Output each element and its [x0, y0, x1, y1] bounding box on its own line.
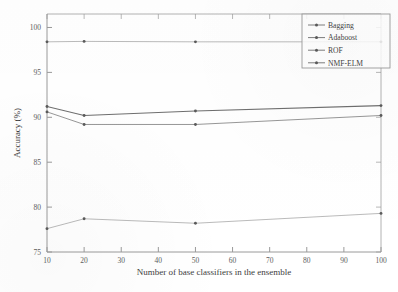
data-point: [46, 227, 49, 230]
legend-marker: [315, 49, 318, 52]
x-tick-label: 70: [266, 256, 274, 265]
data-point: [83, 40, 86, 43]
series-bagging: [46, 212, 383, 230]
x-tick-label: 30: [117, 256, 125, 265]
y-tick-label: 75: [34, 248, 42, 257]
line-chart: 7580859095100 102030405060708090100 Numb…: [0, 0, 398, 292]
series-rof: [46, 104, 383, 117]
data-point: [380, 104, 383, 107]
y-tick-label: 80: [34, 203, 42, 212]
y-tick-label: 95: [34, 68, 42, 77]
y-tick-label: 90: [34, 113, 42, 122]
x-axis-title: Number of base classifiers in the ensemb…: [137, 267, 291, 277]
x-tick-label: 100: [375, 256, 387, 265]
data-point: [83, 217, 86, 220]
data-point: [194, 40, 197, 43]
legend-marker: [315, 36, 318, 39]
series-adaboost: [46, 110, 383, 125]
y-tick-label: 100: [30, 23, 42, 32]
data-point: [83, 114, 86, 117]
y-axis-title: Accuracy (%): [12, 108, 22, 158]
data-point: [46, 105, 49, 108]
data-point: [380, 212, 383, 215]
data-point: [83, 123, 86, 126]
x-tick-label: 10: [43, 256, 51, 265]
x-tick-label: 40: [155, 256, 163, 265]
data-point: [46, 40, 49, 43]
legend-item-label: NMF-ELM: [328, 59, 363, 68]
x-tick-label: 50: [192, 256, 200, 265]
chart-legend: BaggingAdaboostROFNMF-ELM: [302, 14, 390, 68]
data-point: [194, 123, 197, 126]
x-tick-label: 90: [340, 256, 348, 265]
legend-marker: [315, 24, 318, 27]
x-tick-label: 20: [80, 256, 88, 265]
x-tick-label: 60: [229, 256, 237, 265]
x-tick-label: 80: [303, 256, 311, 265]
legend-marker: [315, 61, 318, 64]
legend-item-label: ROF: [328, 46, 343, 55]
data-point: [194, 110, 197, 113]
data-point: [380, 114, 383, 117]
y-tick-label: 85: [34, 158, 42, 167]
data-point: [46, 110, 49, 113]
series-layer: [46, 40, 383, 230]
legend-item-label: Bagging: [328, 21, 354, 30]
legend-item-label: Adaboost: [328, 33, 358, 42]
figure-canvas: 7580859095100 102030405060708090100 Numb…: [0, 0, 398, 292]
data-point: [194, 222, 197, 225]
